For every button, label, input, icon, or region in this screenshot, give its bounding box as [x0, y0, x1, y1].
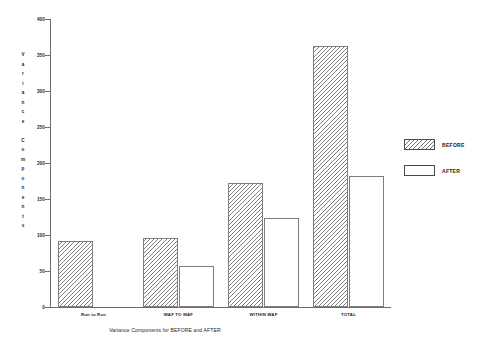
bar-before-total [313, 46, 348, 307]
y-tick-mark [45, 163, 51, 164]
y-axis-title-letter: a [17, 88, 29, 98]
y-axis-title-letter: c [17, 107, 29, 117]
y-axis-title-letter: n [17, 202, 29, 212]
y-axis-title-letter: m [17, 155, 29, 165]
chart-legend: BEFORE AFTER [404, 138, 500, 190]
y-axis-title-letter: a [17, 60, 29, 70]
y-tick-label: 400 [19, 17, 45, 22]
legend-item-after: AFTER [404, 164, 500, 177]
y-axis-title-letter: o [17, 174, 29, 184]
x-axis-line [50, 307, 391, 308]
y-axis-title-letter: C [17, 136, 29, 146]
y-axis-title-letter [17, 126, 29, 136]
legend-label-before: BEFORE [442, 142, 465, 148]
bar-before-within-waf [228, 183, 263, 307]
y-tick-mark [45, 307, 51, 308]
y-tick-mark [45, 235, 51, 236]
y-tick-label: 100 [19, 233, 45, 238]
y-tick-mark [45, 127, 51, 128]
x-category-label-run-to-run: Run to Run [51, 312, 136, 318]
x-category-label-total: TOTAL [306, 312, 391, 318]
y-axis-title-letter: t [17, 212, 29, 222]
x-category-label-within-waf: WITHIN WAF [221, 312, 306, 318]
y-tick-mark [45, 55, 51, 56]
y-tick-mark [45, 91, 51, 92]
bar-after-within-waf [264, 218, 299, 307]
y-axis-title-letter: o [17, 145, 29, 155]
y-tick-label: 0 [19, 305, 45, 310]
y-tick-label: 50 [19, 269, 45, 274]
y-axis-title-letter: r [17, 69, 29, 79]
legend-label-after: AFTER [442, 168, 460, 174]
bar-after-total [349, 176, 384, 307]
y-tick-mark [45, 271, 51, 272]
chart-caption: Variance Components for BEFORE and AFTER [0, 327, 330, 333]
y-axis-title-letter: n [17, 183, 29, 193]
chart-page: 050100150200250300350400 VarianceCompone… [0, 0, 503, 353]
bar-after-waf-to-waf [179, 266, 214, 307]
y-axis-title-letter: e [17, 193, 29, 203]
y-axis-title-letter: e [17, 117, 29, 127]
bar-before-run-to-run [58, 241, 93, 307]
bar-before-waf-to-waf [143, 238, 178, 307]
y-axis-title-letter: p [17, 164, 29, 174]
bar-chart-plot: 050100150200250300350400 VarianceCompone… [0, 0, 503, 353]
x-category-label-waf-to-waf: WAF TO WAF [136, 312, 221, 318]
y-axis-title-letter: i [17, 79, 29, 89]
y-tick-mark [45, 199, 51, 200]
legend-item-before: BEFORE [404, 138, 500, 151]
y-axis-title: VarianceComponents [17, 50, 29, 231]
y-axis-title-letter: n [17, 98, 29, 108]
y-axis-title-letter: V [17, 50, 29, 60]
y-axis-title-letter: s [17, 221, 29, 231]
y-tick-mark [45, 19, 51, 20]
legend-swatch-after [404, 165, 435, 176]
legend-swatch-before [404, 139, 435, 150]
